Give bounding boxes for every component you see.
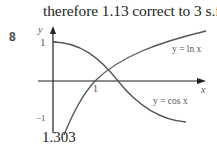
y-axis-label: y <box>37 24 43 35</box>
x-axis-label: x <box>200 84 206 95</box>
cos-curve <box>53 42 186 122</box>
y-axis-arrow-icon <box>50 26 56 34</box>
y-tick-label-neg1: −1 <box>36 113 46 123</box>
answer-value: 1.303 <box>42 129 76 146</box>
x-tick-label-1: 1 <box>93 83 98 94</box>
cos-curve-label: y = cos x <box>153 96 188 106</box>
y-tick-label-1: 1 <box>40 36 46 48</box>
graph-cos-ln: y 1 1 x −1 y = ln x y = cos x <box>0 0 217 149</box>
ln-curve-label: y = ln x <box>172 44 202 54</box>
